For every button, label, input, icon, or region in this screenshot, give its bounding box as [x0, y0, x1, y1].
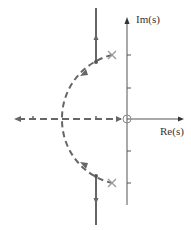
imaginary-axis [125, 17, 132, 205]
root-locus-diagram: Im(s) Re(s) [0, 0, 191, 230]
real-axis [127, 117, 184, 122]
imag-axis-label: Im(s) [136, 13, 160, 25]
root-locus-plot [0, 0, 191, 230]
real-axis-label: Re(s) [160, 125, 184, 137]
locus-real-axis [14, 116, 122, 122]
